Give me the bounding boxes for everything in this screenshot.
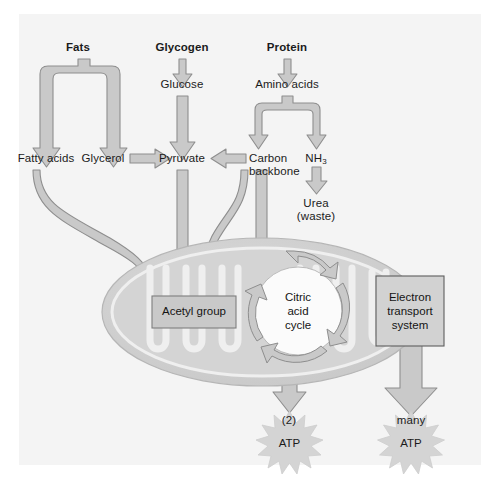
label-atp-right: ATP bbox=[400, 437, 422, 449]
carbon-backbone-line-2: backbone bbox=[249, 165, 300, 177]
ammonia-formula: NH bbox=[305, 152, 322, 164]
label-citric-acid-cycle: Citric acid cycle bbox=[285, 290, 311, 332]
urea-line-1: Urea bbox=[303, 197, 328, 209]
label-pyruvate: Pyruvate bbox=[159, 152, 205, 165]
citric-acid-cycle-line-3: cycle bbox=[285, 319, 311, 331]
ets-line-2: transport bbox=[387, 305, 432, 317]
label-glycerol: Glycerol bbox=[82, 152, 125, 165]
arrow-carbon-backbone-to-pyruvate bbox=[211, 149, 246, 168]
citric-acid-cycle-line-2: acid bbox=[287, 305, 308, 317]
label-ammonia: NH3 bbox=[305, 152, 326, 168]
label-fatty-acids: Fatty acids bbox=[18, 152, 75, 165]
arrow-glucose-to-pyruvate bbox=[170, 96, 195, 160]
label-amino-acids: Amino acids bbox=[255, 78, 319, 91]
label-fats: Fats bbox=[66, 41, 90, 54]
label-atp-left-yield: (2) bbox=[282, 414, 296, 427]
ets-line-1: Electron bbox=[389, 291, 431, 303]
arrow-fats-fork bbox=[33, 59, 127, 167]
label-electron-transport-system: Electron transport system bbox=[387, 290, 432, 332]
label-glucose: Glucose bbox=[161, 78, 204, 91]
carbon-backbone-line-1: Carbon bbox=[249, 152, 287, 164]
figure-canvas: Fats Glycogen Protein Glucose Amino acid… bbox=[0, 0, 500, 487]
label-atp-right-yield: many bbox=[397, 414, 426, 427]
arrow-amino-acids-fork bbox=[249, 96, 326, 149]
ets-line-3: system bbox=[392, 319, 428, 331]
label-acetyl-group: Acetyl group bbox=[162, 305, 226, 319]
arrow-ammonia-to-urea bbox=[306, 167, 327, 194]
label-urea: Urea (waste) bbox=[297, 197, 335, 223]
label-protein: Protein bbox=[267, 41, 307, 54]
label-atp-left: ATP bbox=[279, 437, 301, 449]
citric-acid-cycle-line-1: Citric bbox=[285, 291, 311, 303]
ammonia-subscript: 3 bbox=[322, 157, 327, 166]
label-glycogen: Glycogen bbox=[155, 41, 208, 54]
urea-line-2: (waste) bbox=[297, 210, 335, 222]
label-carbon-backbone: Carbon backbone bbox=[249, 152, 300, 178]
